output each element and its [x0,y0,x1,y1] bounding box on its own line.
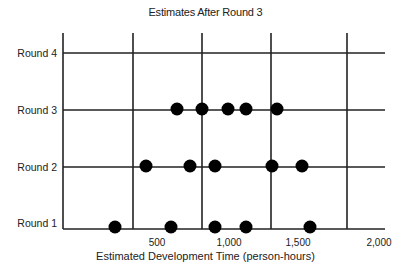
round-1-points [109,221,317,234]
data-point [171,103,184,116]
grid-vertical [63,33,347,229]
y-axis-labels: Round 4 Round 3 Round 2 Round 1 [17,47,57,229]
x-tick-1000: 1,000 [216,237,241,248]
x-tick-500: 500 [149,237,166,248]
round-2-points [140,160,309,173]
data-point [271,103,284,116]
y-label-round-3: Round 3 [17,104,57,116]
data-point [240,103,253,116]
data-point [240,221,253,234]
y-label-round-1: Round 1 [17,217,57,229]
data-point [140,160,153,173]
y-label-round-2: Round 2 [17,161,57,173]
data-point [296,160,309,173]
data-point [196,103,209,116]
data-point [222,103,235,116]
round-3-points [171,103,284,116]
data-point [184,160,197,173]
data-point [209,221,222,234]
grid-horizontal [63,53,385,229]
data-point [109,221,122,234]
data-point [165,221,178,234]
x-tick-2000: 2,000 [366,237,391,248]
x-tick-1500: 1,500 [285,237,310,248]
x-axis-title: Estimated Development Time (person-hours… [0,250,411,262]
y-label-round-4: Round 4 [17,47,57,59]
data-point [266,160,279,173]
data-point [304,221,317,234]
chart-plot: Round 4 Round 3 Round 2 Round 1 500 1,00… [0,0,411,280]
data-point [209,160,222,173]
x-axis-labels: 500 1,000 1,500 2,000 [149,237,392,248]
